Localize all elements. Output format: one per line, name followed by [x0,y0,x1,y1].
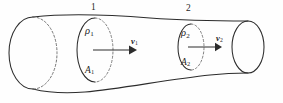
figure-container: 1 2 ρ1 ρ2 A1 A2 v1 v2 [0,0,283,103]
area2-subscript: 2 [187,60,190,67]
area2-label: A2 [181,58,190,68]
section1-number-label: 1 [91,3,96,13]
density1-label: ρ1 [85,26,94,38]
velocity1-label: v1 [131,37,138,47]
area1-label: A1 [85,66,94,76]
velocity2-arrow-head [215,43,222,51]
left-cap-front-arc [9,17,33,89]
stream-tube-drawing [0,0,283,103]
tube-bottom-outline [33,73,248,93]
density2-subscript: 2 [186,32,190,40]
tube-top-outline [33,15,248,21]
left-cap-hidden-arc [33,17,57,89]
velocity2-label: v2 [216,34,223,44]
density2-label: ρ2 [181,28,190,40]
velocity1-subscript: 1 [135,40,138,46]
right-cap-ellipse [232,21,264,73]
velocity2-subscript: 2 [220,37,223,43]
area1-subscript: 1 [91,68,94,75]
density1-subscript: 1 [90,30,94,38]
section2-number-label: 2 [186,4,191,14]
